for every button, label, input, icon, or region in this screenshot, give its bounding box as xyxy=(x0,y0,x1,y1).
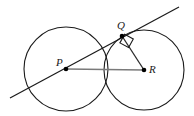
geometry-canvas xyxy=(0,0,194,116)
point-R-dot-icon xyxy=(142,68,147,73)
segment-QR xyxy=(122,36,144,70)
tangent-line xyxy=(10,7,179,98)
point-P-dot-icon xyxy=(64,67,69,72)
vertex-label-Q: Q xyxy=(117,20,125,31)
vertex-label-P: P xyxy=(56,57,63,68)
segment-PR xyxy=(66,69,144,70)
vertex-label-R: R xyxy=(149,64,156,75)
point-Q-dot-icon xyxy=(120,34,125,39)
geometry-figure: P Q R xyxy=(0,0,194,116)
